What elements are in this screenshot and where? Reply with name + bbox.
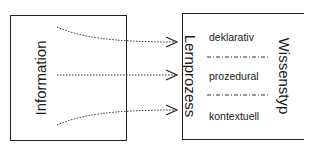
lernprozess-label: Lernprozess bbox=[182, 35, 199, 118]
wissenstyp-label: Wissenstyp bbox=[276, 38, 293, 115]
arrow-bottom bbox=[57, 110, 175, 125]
information-label: Information bbox=[32, 40, 49, 115]
arrow-top bbox=[57, 27, 175, 42]
type-kontextuell: kontextuell bbox=[209, 110, 259, 122]
type-prozedural: prozedural bbox=[209, 70, 259, 82]
type-deklarativ: deklarativ bbox=[209, 31, 254, 43]
